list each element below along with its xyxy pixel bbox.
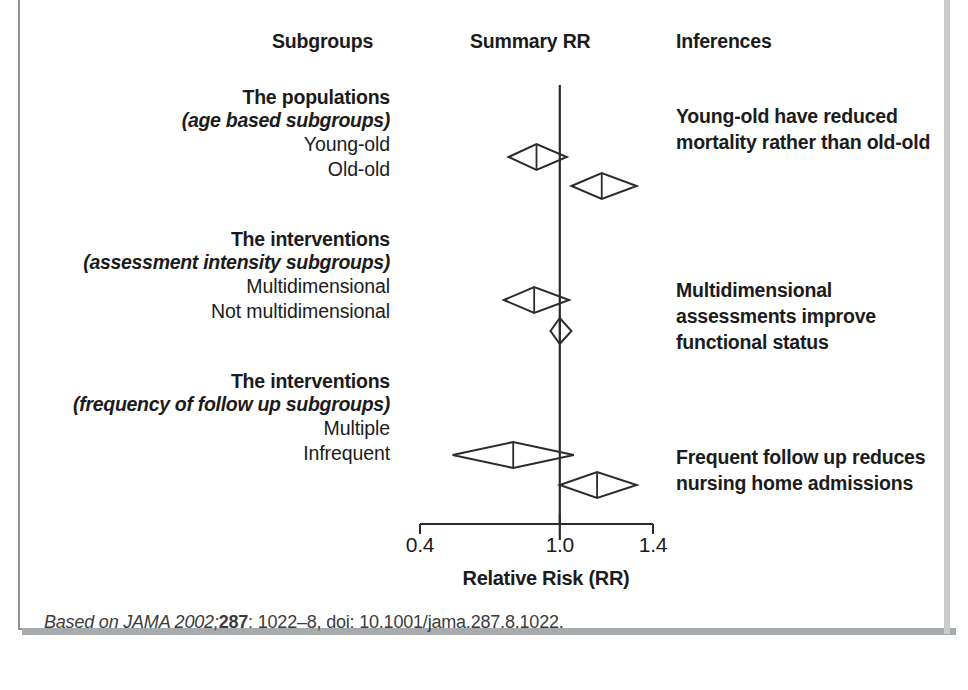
subgroup-subtitle: (frequency of follow up subgroups)	[0, 393, 390, 416]
x-axis-title: Relative Risk (RR)	[396, 567, 696, 590]
subgroup-title: The populations	[0, 86, 390, 109]
x-tick-label: 0.4	[390, 533, 450, 557]
source-volume: 287	[219, 612, 248, 632]
source-citation: Based on JAMA 2002;287: 1022–8, doi: 10.…	[44, 612, 564, 633]
source-suffix: : 1022–8, doi: 10.1001/jama.287.8.1022.	[248, 612, 563, 632]
column-header-summary-rr: Summary RR	[470, 30, 590, 53]
subgroup-subtitle: (age based subgroups)	[0, 109, 390, 132]
subgroup-item: Multidimensional	[0, 274, 390, 299]
x-tick-label: 1.4	[623, 533, 683, 557]
subgroup-item: Not multidimensional	[0, 299, 390, 324]
subgroup-item: Infrequent	[0, 441, 390, 466]
inference-text: Multidimensional assessments improve fun…	[676, 277, 944, 355]
subgroup-item: Old-old	[0, 157, 390, 182]
inference-text: Frequent follow up reduces nursing home …	[676, 444, 944, 496]
source-prefix: Based on JAMA 2002;	[44, 612, 219, 632]
subgroup-title: The interventions	[0, 370, 390, 393]
subgroup-item: Multiple	[0, 416, 390, 441]
subgroup-label-block: The interventions (assessment intensity …	[0, 228, 390, 324]
frame-shadow-right	[944, 0, 950, 634]
subgroup-label-block: The interventions (frequency of follow u…	[0, 370, 390, 466]
column-header-inferences: Inferences	[676, 30, 772, 53]
figure-page: subgroup analyses from a meta-analysis o…	[0, 0, 968, 690]
x-tick-label: 1.0	[530, 533, 590, 557]
subgroup-item: Young-old	[0, 132, 390, 157]
inference-text: Young-old have reduced mortality rather …	[676, 103, 944, 155]
subgroup-subtitle: (assessment intensity subgroups)	[0, 251, 390, 274]
column-header-subgroups: Subgroups	[272, 30, 373, 53]
subgroup-title: The interventions	[0, 228, 390, 251]
subgroup-label-block: The populations (age based subgroups) Yo…	[0, 86, 390, 182]
